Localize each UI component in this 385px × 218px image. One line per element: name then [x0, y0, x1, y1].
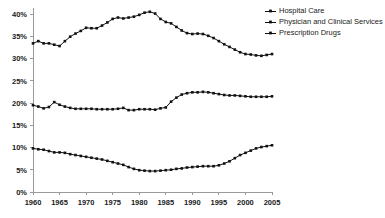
data-point-marker [106, 108, 109, 111]
y-tick-label: 20% [12, 99, 27, 108]
y-tick-label: 30% [12, 54, 27, 63]
data-point-marker [127, 109, 130, 112]
data-point-marker [228, 46, 231, 49]
data-point-marker [37, 148, 40, 151]
data-point-marker [106, 21, 109, 24]
data-point-marker [53, 151, 56, 154]
data-point-marker [212, 37, 215, 40]
chart-container: 0%5%10%15%20%25%30%35%40% 19601965197019… [0, 0, 385, 218]
y-tick-label: 35% [12, 32, 27, 41]
data-point-marker [207, 35, 210, 38]
data-point-marker [117, 16, 120, 19]
series-1 [32, 10, 274, 57]
data-point-marker [69, 35, 72, 38]
data-point-marker [74, 32, 77, 35]
data-point-marker [48, 150, 51, 153]
data-point-marker [218, 40, 221, 43]
data-point-marker [223, 162, 226, 165]
data-point-marker [101, 24, 104, 27]
data-point-marker [212, 92, 215, 95]
legend-item-label: Physician and Clinical Services [279, 17, 383, 26]
data-point-marker [202, 165, 205, 168]
x-axis-group: 1960196519701975198019851990199520002005 [25, 192, 281, 207]
data-point-marker [80, 155, 83, 158]
data-point-marker [48, 106, 51, 109]
y-axis-group: 0%5%10%15%20%25%30%35%40% [12, 8, 33, 197]
data-point-marker [234, 94, 237, 97]
data-point-marker [106, 160, 109, 163]
data-point-marker [127, 16, 130, 19]
data-point-marker [207, 165, 210, 168]
data-point-marker [244, 152, 247, 155]
legend-item-3[interactable]: Prescription Drugs [265, 28, 341, 37]
data-point-marker [159, 107, 162, 110]
series-line [33, 92, 272, 110]
data-point-marker [42, 42, 45, 45]
data-point-marker [58, 45, 61, 48]
data-point-marker [180, 29, 183, 32]
legend-item-label: Prescription Drugs [279, 28, 341, 37]
data-point-marker [265, 95, 268, 98]
data-point-marker [249, 95, 252, 98]
y-tick-label: 5% [16, 166, 27, 175]
legend-item-1[interactable]: Hospital Care [265, 6, 324, 15]
data-point-marker [64, 105, 67, 108]
data-point-marker [175, 168, 178, 171]
data-point-marker [249, 53, 252, 56]
y-tick-label: 40% [12, 10, 27, 19]
data-point-marker [218, 164, 221, 167]
data-point-marker [122, 17, 125, 20]
data-point-marker [255, 95, 258, 98]
data-point-marker [196, 91, 199, 94]
series-2 [32, 91, 274, 112]
data-point-marker [249, 149, 252, 152]
data-point-marker [149, 108, 152, 111]
data-point-marker [191, 33, 194, 36]
data-point-marker [212, 165, 215, 168]
data-point-marker [207, 91, 210, 94]
data-point-marker [64, 40, 67, 43]
data-point-marker [239, 154, 242, 157]
x-tick-label: 1980 [131, 198, 148, 207]
x-axis-tick-labels: 1960196519701975198019851990199520002005 [25, 198, 281, 207]
data-point-marker [143, 108, 146, 111]
legend-item-2[interactable]: Physician and Clinical Services [265, 17, 383, 26]
data-point-marker [37, 105, 40, 108]
data-point-marker [85, 107, 88, 110]
data-point-marker [122, 164, 125, 167]
x-tick-label: 1985 [157, 198, 174, 207]
data-point-marker [202, 33, 205, 36]
data-point-marker [111, 108, 114, 111]
data-point-marker [202, 91, 205, 94]
data-point-marker [260, 95, 263, 98]
data-point-marker [164, 169, 167, 172]
data-point-marker [239, 95, 242, 98]
data-point-marker [95, 108, 98, 111]
y-tick-label: 15% [12, 121, 27, 130]
data-point-marker [170, 22, 173, 25]
data-point-marker [143, 169, 146, 172]
data-point-marker [196, 165, 199, 168]
legend-item-label: Hospital Care [279, 6, 324, 15]
data-point-marker [127, 166, 130, 169]
data-point-marker [90, 156, 93, 159]
data-point-marker [117, 107, 120, 110]
data-point-marker [234, 157, 237, 160]
data-point-marker [58, 103, 61, 106]
data-point-marker [53, 101, 56, 104]
data-point-marker [90, 107, 93, 110]
data-point-marker [101, 158, 104, 161]
data-point-marker [218, 93, 221, 96]
data-point-marker [133, 15, 136, 18]
data-point-marker [111, 161, 114, 164]
series-line [33, 12, 272, 56]
data-point-marker [175, 26, 178, 29]
data-point-marker [133, 168, 136, 171]
data-point-marker [85, 27, 88, 30]
data-point-marker [228, 160, 231, 163]
data-point-marker [186, 92, 189, 95]
data-point-marker [69, 153, 72, 156]
x-tick-label: 1975 [104, 198, 121, 207]
data-point-marker [191, 91, 194, 94]
data-point-marker [180, 167, 183, 170]
